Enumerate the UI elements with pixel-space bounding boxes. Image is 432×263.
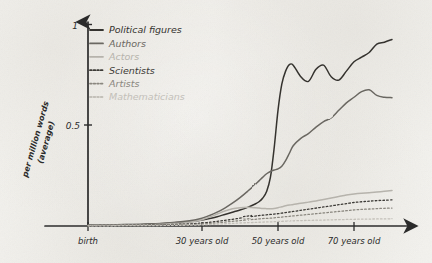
legend-label-actors: Actors [108, 51, 139, 62]
legend-label-mathematicians: Mathematicians [109, 91, 185, 102]
x-tick-label-70: 70 years old [328, 236, 381, 246]
legend-label-artists: Artists [108, 78, 139, 89]
series-line-scientists [88, 200, 392, 226]
axes-group [45, 22, 416, 231]
legend-label-scientists: Scientists [109, 65, 155, 76]
legend-label-authors: Authors [108, 38, 146, 49]
series-line-authors [88, 90, 392, 226]
x-tick-label-birth: birth [78, 236, 98, 246]
x-tick-label-50: 50 years old [252, 236, 305, 246]
y-tick-label-1: 1 [72, 21, 78, 31]
chart-page: 1 0.5 birth 30 years old 50 years old 70… [0, 0, 432, 263]
y-tick-label-05: 0.5 [66, 121, 81, 131]
x-tick-label-30: 30 years old [176, 236, 229, 246]
chart-svg: 1 0.5 birth 30 years old 50 years old 70… [0, 0, 432, 263]
legend-label-political-figures: Political figures [109, 24, 182, 35]
y-axis-title: per million words (average) [20, 100, 61, 182]
legend: Political figuresAuthorsActorsScientists… [90, 24, 185, 102]
